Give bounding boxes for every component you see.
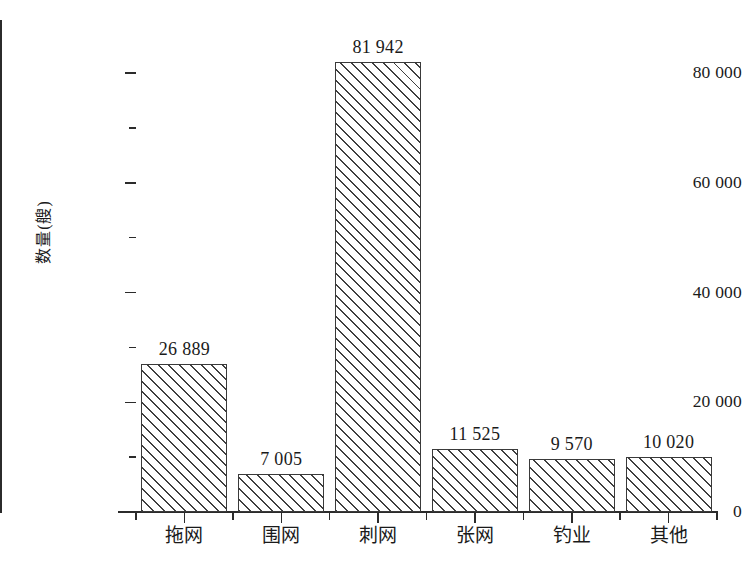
x-axis-tick-boundary bbox=[716, 512, 718, 520]
bar bbox=[335, 62, 421, 512]
x-axis-tick-boundary bbox=[232, 512, 234, 520]
x-axis-tick-label: 围网 bbox=[262, 526, 300, 547]
y-axis-tick-major bbox=[125, 292, 136, 294]
x-axis-tick-center bbox=[377, 512, 379, 523]
y-axis-tick-major bbox=[125, 72, 136, 74]
bar bbox=[238, 474, 324, 512]
bar-value-label: 26 889 bbox=[159, 340, 210, 358]
y-axis-tick-label: 40 000 bbox=[624, 284, 742, 302]
x-axis-tick-label: 刺网 bbox=[359, 526, 397, 547]
y-axis-tick-label: 60 000 bbox=[624, 174, 742, 192]
bar-value-label: 11 525 bbox=[450, 425, 501, 443]
y-axis-tick-major bbox=[125, 182, 136, 184]
bar-value-label: 10 020 bbox=[643, 433, 694, 451]
bar bbox=[141, 364, 227, 512]
y-axis-tick-minor bbox=[129, 347, 136, 349]
y-axis-title: 数量(艘) bbox=[30, 200, 54, 264]
x-axis-tick-center bbox=[184, 512, 186, 523]
x-axis-tick-label: 钓业 bbox=[553, 526, 591, 547]
x-axis-tick-center bbox=[571, 512, 573, 523]
x-axis-tick-center bbox=[474, 512, 476, 523]
x-axis-tick-center bbox=[281, 512, 283, 523]
bar bbox=[626, 457, 712, 512]
y-axis-tick-minor bbox=[129, 237, 136, 239]
x-axis-tick-boundary bbox=[426, 512, 428, 520]
x-axis-tick-label: 拖网 bbox=[165, 526, 203, 547]
y-axis-tick-major bbox=[125, 402, 136, 404]
bar-value-label: 9 570 bbox=[551, 435, 593, 453]
y-axis-tick-label: 20 000 bbox=[624, 393, 742, 411]
x-axis-tick-boundary bbox=[135, 512, 137, 520]
bar bbox=[529, 459, 615, 512]
y-axis-line bbox=[0, 20, 2, 513]
y-axis-tick-label: 80 000 bbox=[624, 64, 742, 82]
x-axis-tick-label: 其他 bbox=[650, 526, 688, 547]
bar-chart: 数量(艘) 020 00040 00060 00080 000 拖网围网刺网张网… bbox=[0, 0, 742, 578]
bar bbox=[432, 449, 518, 512]
x-axis-tick-boundary bbox=[329, 512, 331, 520]
bar-value-label: 7 005 bbox=[260, 450, 302, 468]
y-axis-tick-minor bbox=[129, 127, 136, 129]
bar-value-label: 81 942 bbox=[352, 38, 403, 56]
x-axis-tick-boundary bbox=[619, 512, 621, 520]
x-axis-tick-boundary bbox=[523, 512, 525, 520]
x-axis-tick-label: 张网 bbox=[456, 526, 494, 547]
y-axis-tick-minor bbox=[129, 456, 136, 458]
x-axis-tick-center bbox=[668, 512, 670, 523]
